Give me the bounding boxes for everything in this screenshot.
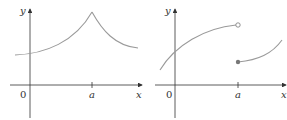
diagram-canvas: y 0 a x y 0 a x xyxy=(0,0,287,120)
right-curve-left-branch xyxy=(160,25,236,70)
right-a-label: a xyxy=(235,89,241,100)
open-circle-marker xyxy=(236,23,240,27)
left-origin-label: 0 xyxy=(20,89,26,100)
left-x-label: x xyxy=(136,89,142,100)
right-graph: y 0 a x xyxy=(155,5,287,118)
left-y-label: y xyxy=(19,5,26,16)
right-origin-label: 0 xyxy=(166,89,172,100)
right-curve-right-branch xyxy=(238,40,282,62)
right-x-label: x xyxy=(281,89,287,100)
left-graph: y 0 a x xyxy=(10,5,142,118)
right-y-label: y xyxy=(164,5,171,16)
filled-dot-marker xyxy=(236,60,240,64)
left-a-label: a xyxy=(89,89,95,100)
left-curve-rising xyxy=(15,12,92,55)
left-curve-falling xyxy=(92,12,138,48)
